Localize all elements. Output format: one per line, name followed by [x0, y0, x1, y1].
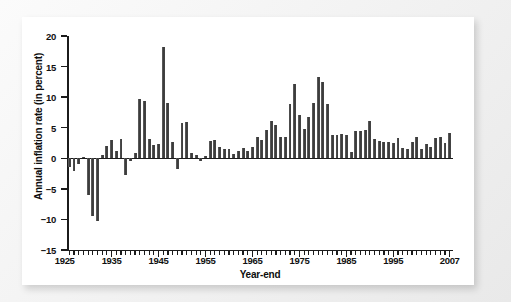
bar — [181, 123, 184, 158]
x-tick-minor — [257, 251, 258, 255]
x-tick-label: 1955 — [196, 255, 216, 266]
bar — [401, 148, 404, 158]
bar — [195, 155, 198, 159]
bar — [237, 151, 240, 158]
x-tick-minor — [224, 251, 225, 255]
x-tick-minor — [69, 251, 70, 255]
bar — [256, 137, 259, 158]
y-tick-label: 15 — [46, 61, 56, 72]
x-tick-minor — [411, 251, 412, 255]
x-tick-minor — [275, 251, 276, 255]
x-tick-label: 1935 — [102, 255, 122, 266]
x-tick-minor — [374, 251, 375, 255]
x-tick-minor — [308, 251, 309, 255]
x-tick-minor — [163, 251, 164, 255]
x-tick-minor — [388, 251, 389, 255]
bar — [429, 147, 432, 159]
y-tick-label: 20 — [46, 31, 56, 42]
x-tick-minor — [289, 251, 290, 255]
x-tick-minor — [416, 251, 417, 255]
bar — [378, 141, 381, 159]
x-tick-minor — [134, 251, 135, 255]
x-tick-minor — [271, 251, 272, 255]
bar — [307, 117, 310, 159]
bar — [331, 135, 334, 158]
bar — [82, 157, 85, 158]
x-tick-minor — [214, 251, 215, 255]
x-tick-minor — [88, 251, 89, 255]
bar — [157, 144, 160, 158]
x-tick-minor — [181, 251, 182, 255]
bar — [321, 82, 324, 158]
y-axis-title: Annual inflation rate (in percent) — [33, 27, 44, 227]
x-tick-minor — [355, 251, 356, 255]
bar — [387, 142, 390, 159]
x-tick-minor — [369, 251, 370, 255]
x-tick-minor — [430, 251, 431, 255]
x-tick-minor — [266, 251, 267, 255]
bar — [298, 115, 301, 158]
x-tick-minor — [397, 251, 398, 255]
inflation-bar-chart: −15−10−505101520 Annual inflation rate (… — [22, 17, 474, 285]
bar — [392, 143, 395, 158]
x-tick-minor — [149, 251, 150, 255]
x-tick-minor — [139, 251, 140, 255]
bar — [345, 135, 348, 158]
bar — [91, 158, 94, 216]
bar — [415, 137, 418, 158]
bar — [209, 141, 212, 159]
x-tick-minor — [196, 251, 197, 255]
x-tick-minor — [318, 251, 319, 255]
bar — [303, 129, 306, 158]
x-tick-minor — [125, 251, 126, 255]
x-tick-minor — [238, 251, 239, 255]
bar — [87, 158, 90, 195]
bar — [120, 139, 123, 158]
bar — [68, 158, 71, 167]
y-tick-label: −5 — [46, 183, 56, 194]
bar — [115, 151, 118, 158]
bar — [420, 149, 423, 159]
bar — [138, 99, 141, 158]
bar — [166, 103, 169, 158]
x-tick-minor — [426, 251, 427, 255]
bar — [317, 77, 320, 158]
y-tick-label: 5 — [51, 122, 56, 133]
bar — [148, 139, 151, 159]
y-tick-label: 0 — [51, 153, 56, 164]
bar — [406, 149, 409, 159]
bar — [124, 158, 127, 175]
x-tick-minor — [73, 251, 74, 255]
bar — [340, 134, 343, 158]
x-tick-label: 1965 — [242, 255, 262, 266]
x-tick-minor — [219, 251, 220, 255]
bar — [439, 137, 442, 158]
bar — [364, 130, 367, 158]
x-tick-label: 1945 — [149, 255, 169, 266]
x-tick-minor — [383, 251, 384, 255]
bar — [434, 138, 437, 158]
bar — [289, 104, 292, 158]
bar — [293, 84, 296, 159]
bar — [162, 47, 165, 158]
x-tick-minor — [247, 251, 248, 255]
x-tick-minor — [153, 251, 154, 255]
x-tick-minor — [294, 251, 295, 255]
bar — [246, 151, 249, 158]
x-tick-minor — [285, 251, 286, 255]
x-tick-label: 2007 — [440, 255, 460, 266]
bar — [448, 133, 451, 158]
x-tick-label: 1925 — [55, 255, 75, 266]
x-tick-minor — [365, 251, 366, 255]
bar — [368, 121, 371, 158]
y-tick-label: 10 — [46, 92, 56, 103]
bar — [242, 148, 245, 158]
bar — [279, 137, 282, 158]
x-tick-minor — [177, 251, 178, 255]
bar — [312, 103, 315, 158]
bar — [176, 158, 179, 169]
bar — [350, 152, 353, 159]
x-tick-minor — [242, 251, 243, 255]
bar — [129, 158, 132, 161]
bar — [77, 158, 80, 164]
